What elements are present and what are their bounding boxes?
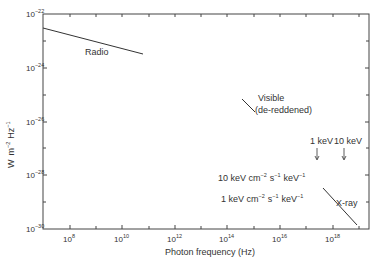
label-10kev: 10 keV xyxy=(334,136,362,146)
svg-text:1014: 1014 xyxy=(219,233,234,244)
label-radio: Radio xyxy=(85,47,109,57)
svg-text:1010: 1010 xyxy=(114,233,129,244)
label-de-reddened: (de-reddened) xyxy=(255,105,312,115)
y-tick-labels: 10−22 10−24 10−26 10−28 10−30 xyxy=(26,8,44,234)
svg-text:10−30: 10−30 xyxy=(26,223,44,234)
annotation-10kev-flux: 10 keV cm−2s−1keV−1 xyxy=(218,172,305,183)
y-axis-label: Wm−2Hz−1 xyxy=(5,121,16,168)
x-axis-label: Photon frequency (Hz) xyxy=(165,247,255,257)
svg-text:10−22: 10−22 xyxy=(26,8,44,19)
series-visible-line xyxy=(242,99,255,112)
chart-canvas: 10−22 10−24 10−26 10−28 10−30 108 1010 1… xyxy=(0,0,377,262)
svg-text:10−28: 10−28 xyxy=(26,169,44,180)
x-tick-labels: 108 1010 1012 1014 1016 1018 xyxy=(63,233,340,244)
svg-text:1016: 1016 xyxy=(272,233,287,244)
label-xray: X-ray xyxy=(336,198,358,208)
svg-text:10−26: 10−26 xyxy=(26,116,44,127)
svg-text:108: 108 xyxy=(63,233,75,244)
svg-text:1012: 1012 xyxy=(167,233,182,244)
svg-text:10−24: 10−24 xyxy=(26,62,44,73)
annotation-1kev-flux: 1 keV cm−2s−1keV−1 xyxy=(221,193,303,204)
label-visible: Visible xyxy=(258,93,284,103)
y-ticks xyxy=(43,41,369,202)
svg-text:1018: 1018 xyxy=(325,233,340,244)
label-1kev: 1 keV xyxy=(310,136,333,146)
